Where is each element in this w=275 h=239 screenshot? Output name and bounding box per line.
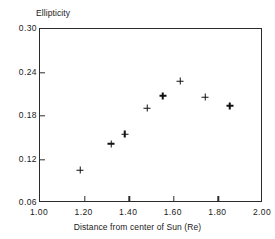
data-point [159,92,166,99]
data-point [108,140,115,147]
data-point [202,94,209,101]
x-axis-title: Distance from center of Sun (Re) [0,222,275,232]
x-tick-mark [218,196,219,201]
y-tick-label: 0.24 [3,67,37,77]
y-tick-label: 0.12 [3,154,37,164]
x-tick-mark [84,196,85,201]
y-tick-label: 0.06 [3,197,37,207]
x-tick-label: 1.80 [208,207,226,217]
plot-area [39,28,262,202]
y-axis-tick-labels: 0.060.120.180.240.30 [0,0,37,239]
data-point [77,167,84,174]
data-point [121,131,128,138]
x-tick-label: 1.60 [164,207,182,217]
data-point [226,102,233,109]
x-tick-label: 1.20 [75,207,93,217]
y-tick-mark [40,115,45,116]
data-point [144,105,151,112]
x-tick-label: 1.40 [119,207,137,217]
y-tick-label: 0.18 [3,110,37,120]
x-tick-mark [128,196,129,201]
x-tick-label: 1.00 [30,207,48,217]
y-tick-mark [40,159,45,160]
scatter-chart: Ellipticity 0.060.120.180.240.30 Distanc… [0,0,275,239]
x-tick-mark [173,196,174,201]
data-point [177,78,184,85]
y-tick-label: 0.30 [3,23,37,33]
y-tick-mark [40,72,45,73]
x-tick-label: 2.00 [253,207,271,217]
y-axis-title: Ellipticity [36,8,70,18]
